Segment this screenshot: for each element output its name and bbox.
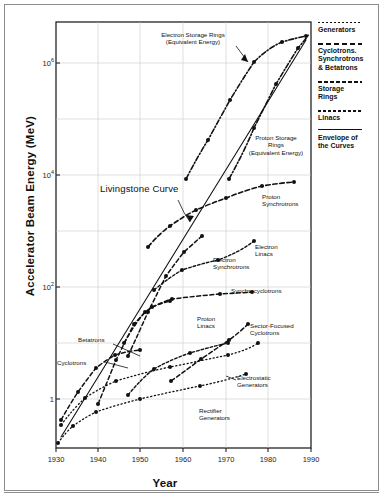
x-tick-label-1930: 1930 xyxy=(41,455,71,464)
legend-swatch-fine-dash-line xyxy=(318,108,362,113)
livingston-chart-figure: 106 104 102 1 1930 1940 1950 1960 1970 1… xyxy=(0,0,385,501)
rectifier-generators-label: Rectifier Generators xyxy=(199,407,230,422)
electron-linacs-label: Electron Linacs xyxy=(255,243,278,258)
electron-synchrotrons-label: Electron Synchrotrons xyxy=(213,256,249,271)
x-tick-label-1970: 1970 xyxy=(211,455,241,464)
legend-label-linacs: Linacs xyxy=(318,114,382,122)
legend-label-storage-rings: Storage Rings xyxy=(318,85,382,102)
legend-label-envelope-of-the-curves: Envelope of the Curves xyxy=(318,134,382,151)
sector-focused-cyclotrons-label: Sector-Focused Cyclotrons xyxy=(250,322,294,337)
betatrons-label: Betatrons xyxy=(78,336,104,343)
figure-caption-strip xyxy=(4,492,379,501)
x-tick-label-1990: 1990 xyxy=(296,455,326,464)
x-tick-label-1980: 1980 xyxy=(253,455,283,464)
legend-label-generators: Generators xyxy=(318,26,382,34)
legend-item-linacs: Linacs xyxy=(318,108,382,122)
y-axis-title: Accelerator Beam Energy (MeV) xyxy=(24,96,36,316)
legend-swatch-dashed-line xyxy=(318,41,362,46)
x-tick-label-1960: 1960 xyxy=(168,455,198,464)
legend-swatch-solid-line xyxy=(318,129,362,133)
synchrocyclotrons-label: Synchrocyclotrons xyxy=(231,287,282,294)
x-tick-label-1950: 1950 xyxy=(125,455,155,464)
legend-item-cyclotrons-synchrotrons-betatrons: Cyclotrons. Synchrotrons & Betatrons xyxy=(318,41,382,72)
livingstone-curve-label: Livingstone Curve xyxy=(100,183,179,194)
legend: Generators Cyclotrons. Synchrotrons & Be… xyxy=(318,20,382,157)
legend-item-generators: Generators xyxy=(318,20,382,34)
proton-linacs-label: Proton Linacs xyxy=(197,315,215,330)
electrostatic-generators-label: Electrostatic Generators xyxy=(237,374,271,389)
y-tick-label-1000000: 106 xyxy=(28,57,54,68)
legend-swatch-dotted-line xyxy=(318,20,362,25)
legend-item-storage-rings: Storage Rings xyxy=(318,79,382,102)
electron-storage-rings-label: Electron Storage Rings (Equivalent Energ… xyxy=(145,31,241,46)
legend-swatch-dash-dot-line xyxy=(318,79,362,84)
x-axis-title: Year xyxy=(0,477,330,489)
legend-item-envelope-of-the-curves: Envelope of the Curves xyxy=(318,129,382,151)
proton-storage-rings-label: Proton Storage Rings (Equivalent Energy) xyxy=(243,134,309,156)
legend-label-cyclotrons-synchrotrons-betatrons: Cyclotrons. Synchrotrons & Betatrons xyxy=(318,47,382,72)
y-tick-label-1: 1 xyxy=(28,393,54,404)
x-tick-label-1940: 1940 xyxy=(83,455,113,464)
proton-synchrotrons-label: Proton Synchrotrons xyxy=(262,193,298,208)
cyclotrons-label: Cyclotrons xyxy=(57,359,86,366)
